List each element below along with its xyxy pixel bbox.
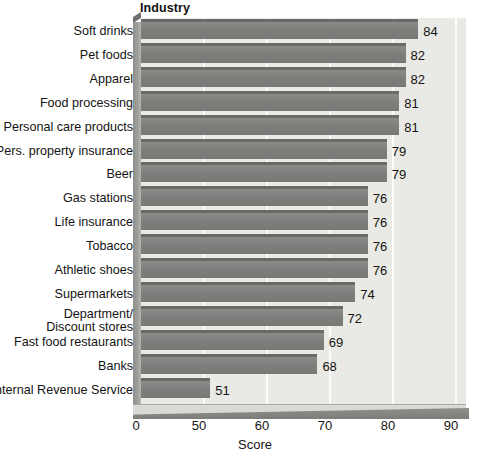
bar-top-highlight	[141, 354, 317, 357]
bar	[141, 333, 324, 350]
bar-top-highlight	[141, 282, 355, 285]
category-label-line: Supermarkets	[55, 287, 133, 301]
category-label-line: Athletic shoes	[55, 263, 133, 277]
bar-top-highlight	[141, 115, 399, 118]
bar-row	[141, 357, 466, 374]
bar-value-label: 51	[215, 384, 229, 397]
bar-top-highlight	[141, 19, 418, 22]
plot-left-wall	[133, 22, 141, 404]
bar-row	[141, 237, 466, 254]
bar-row	[141, 333, 466, 350]
category-label-line: Soft drinks	[74, 24, 134, 38]
bar-top-highlight	[141, 258, 368, 261]
bar-top-highlight	[141, 43, 406, 46]
category-label-line: Pet foods	[80, 48, 133, 62]
category-label: Supermarkets	[55, 288, 133, 301]
bar	[141, 70, 406, 87]
x-axis-title-text: Score	[238, 437, 272, 452]
bar	[141, 213, 368, 230]
bar-top-highlight	[141, 306, 343, 309]
chart-title: Industry	[140, 1, 190, 15]
category-label-line: Gas stations	[63, 191, 133, 205]
category-label: Soft drinks	[74, 25, 134, 38]
bar	[141, 357, 317, 374]
category-label: Food processing	[40, 97, 133, 110]
bar-value-label: 82	[411, 73, 425, 86]
x-tick-label-80: 80	[371, 418, 405, 433]
x-tick-label-0: 0	[119, 418, 153, 433]
bar-top-highlight	[141, 210, 368, 213]
bar	[141, 94, 399, 111]
category-label: Banks	[98, 360, 133, 373]
bar	[141, 142, 387, 159]
bar-row	[141, 213, 466, 230]
category-label: Beer	[106, 168, 133, 181]
bar-value-label: 76	[373, 240, 387, 253]
bar-row	[141, 309, 466, 326]
category-label-line: Banks	[98, 359, 133, 373]
bar-value-label: 74	[360, 288, 374, 301]
bar-row	[141, 142, 466, 159]
bar-top-highlight	[141, 91, 399, 94]
category-label: Tobacco	[86, 240, 133, 253]
category-label-line: Personal care products	[3, 120, 133, 134]
x-tick-label-50: 50	[182, 418, 216, 433]
bar-row	[141, 165, 466, 182]
bar	[141, 381, 210, 398]
category-label-line: Food processing	[40, 96, 133, 110]
bar-row	[141, 261, 466, 278]
category-label: Pet foods	[80, 49, 133, 62]
bar-value-label: 79	[392, 168, 406, 181]
bar-top-highlight	[141, 378, 210, 381]
bar	[141, 237, 368, 254]
bar-top-highlight	[141, 139, 387, 142]
bar-value-label: 84	[423, 25, 437, 38]
category-label-line: Life insurance	[55, 215, 133, 229]
bar-row	[141, 381, 466, 398]
bar-value-label: 82	[411, 49, 425, 62]
category-label-line: Fast food restaurants	[14, 335, 133, 349]
category-label: Internal Revenue Service	[0, 384, 133, 397]
category-label-line: Tobacco	[86, 239, 133, 253]
category-label-line: Discount stores	[46, 321, 133, 334]
x-tick-label-90: 90	[434, 418, 468, 433]
bar-top-highlight	[141, 67, 406, 70]
category-label: Department/Discount stores	[46, 308, 133, 334]
bar	[141, 118, 399, 135]
bar-top-highlight	[141, 330, 324, 333]
bar	[141, 46, 406, 63]
bar	[141, 22, 418, 39]
category-label: Pers. property insurance	[0, 145, 133, 158]
bar-value-label: 81	[404, 121, 418, 134]
bar-row	[141, 285, 466, 302]
category-label-line: Pers. property insurance	[0, 144, 133, 158]
bar-value-label: 76	[373, 216, 387, 229]
category-label: Athletic shoes	[55, 264, 133, 277]
category-label-line: Apparel	[90, 72, 133, 86]
bar-value-label: 81	[404, 97, 418, 110]
category-label-line: Beer	[106, 167, 133, 181]
bar	[141, 165, 387, 182]
bar-value-label: 68	[322, 360, 336, 373]
category-label-line: Department/	[64, 307, 133, 321]
bar-value-label: 79	[392, 145, 406, 158]
bar	[141, 261, 368, 278]
bar-top-highlight	[141, 234, 368, 237]
x-tick-label-60: 60	[245, 418, 279, 433]
category-label: Fast food restaurants	[14, 336, 133, 349]
bar-top-highlight	[141, 162, 387, 165]
x-tick-label-70: 70	[308, 418, 342, 433]
bar	[141, 189, 368, 206]
bar	[141, 309, 343, 326]
bar-value-label: 76	[373, 192, 387, 205]
bar-value-label: 76	[373, 264, 387, 277]
category-label: Life insurance	[55, 216, 133, 229]
category-label: Personal care products	[3, 121, 133, 134]
bar-chart: Industry 8482828181797976767676747269685…	[0, 0, 478, 461]
bar-row	[141, 22, 466, 39]
bar-row	[141, 189, 466, 206]
x-axis-title: Score	[0, 437, 478, 452]
category-label-line: Internal Revenue Service	[0, 383, 133, 397]
bar-value-label: 72	[348, 312, 362, 325]
category-label: Apparel	[90, 73, 133, 86]
